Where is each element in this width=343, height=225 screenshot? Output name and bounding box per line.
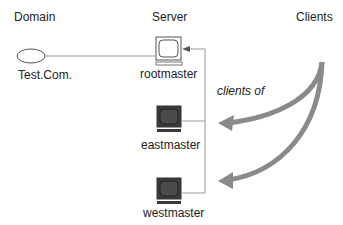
header-clients: Clients [296,10,333,24]
domain-label: Test.Com. [18,68,72,82]
westmaster-monitor-icon [157,178,181,204]
domain-ellipse [17,49,45,63]
eastmaster-monitor-icon [157,106,181,132]
rootmaster-label: rootmaster [140,67,197,81]
relationship-label: clients of [217,84,264,98]
arrowhead-to-rootmaster [182,46,190,52]
westmaster-label: westmaster [143,206,204,220]
rootmaster-monitor-icon [156,37,182,65]
header-domain: Domain [14,10,55,24]
client-arrows [218,62,322,189]
header-server: Server [152,10,187,24]
diagram-canvas [0,0,343,225]
eastmaster-label: eastmaster [141,138,200,152]
